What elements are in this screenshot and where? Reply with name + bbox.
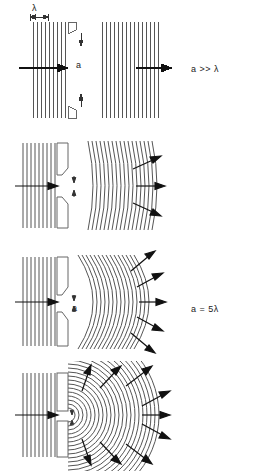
aperture-markers-row-0 <box>79 33 83 107</box>
emergent-wavefronts-row-2 <box>78 255 149 349</box>
emergent-arrow-row-2-4 <box>131 333 155 353</box>
wavelength-bracket-row-0 <box>30 14 48 21</box>
emergent-wavefronts-row-3 <box>68 361 159 471</box>
row-3-figure <box>0 361 254 471</box>
diffraction-row-a-much-greater: λ a a >> λ <box>0 0 254 125</box>
row-1-figure <box>0 125 254 243</box>
diffraction-row-a-equals-3-lambda: a a = 3λ <box>0 243 254 361</box>
emergent-arrow-row-2-2 <box>139 299 166 306</box>
barrier-row-0 <box>68 22 76 118</box>
aperture-markers-row-3 <box>70 410 74 425</box>
emergent-arrow-row-2-3 <box>137 317 163 331</box>
diffraction-row-a-equals-5-lambda: a a = 5λ <box>0 125 254 243</box>
row-2-figure <box>0 243 254 361</box>
emergent-arrow-row-3-2 <box>126 366 152 386</box>
wavelength-label-row-0: λ <box>32 3 37 13</box>
aperture-markers-row-1 <box>72 176 76 197</box>
barrier-row-2 <box>57 257 68 346</box>
incident-arrow-row-3 <box>15 412 58 419</box>
emergent-arrow-row-3-6 <box>126 444 152 464</box>
aperture-label-row-0: a <box>76 60 81 70</box>
emergent-arrow-row-1-1 <box>136 183 165 190</box>
incident-arrow-row-2 <box>15 299 58 306</box>
barrier-row-1 <box>57 143 68 228</box>
emergent-arrow-row-2-1 <box>137 273 163 287</box>
emergent-arrow-row-3-4 <box>142 412 170 419</box>
aperture-markers-row-2 <box>72 295 76 312</box>
emergent-arrow-row-2-0 <box>131 251 155 271</box>
row-0-figure <box>0 0 254 125</box>
condition-label-row-0: a >> λ <box>191 64 219 74</box>
emergent-wavefronts-row-0 <box>102 22 158 118</box>
diffraction-row-a-equals-lambda: a a = λ <box>0 361 254 471</box>
incident-arrow-row-0 <box>19 65 68 72</box>
incident-arrow-row-1 <box>15 183 58 190</box>
